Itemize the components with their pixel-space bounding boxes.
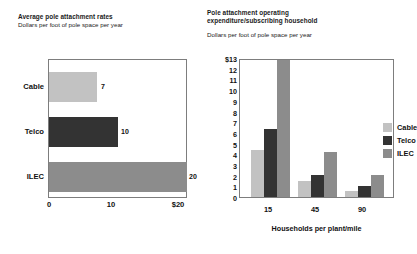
bar-group-45	[298, 152, 337, 197]
bar-telco	[49, 117, 118, 147]
bar-group-15	[251, 60, 290, 197]
bar-90-ilec	[371, 175, 384, 198]
left-chart-title: Average pole attachment rates	[18, 13, 123, 21]
left-plot-area	[48, 59, 187, 198]
bar-cable	[49, 72, 97, 102]
left-xtick-10: 10	[107, 200, 115, 209]
ytick-0: 0	[233, 194, 237, 203]
left-xtick-20: $20	[172, 200, 185, 209]
left-category-label-telco: Telco	[0, 127, 44, 136]
right-plot-area: Cable Telco ILEC	[239, 59, 394, 198]
ytick-2: 2	[233, 172, 237, 181]
legend-swatch-ilec	[383, 149, 392, 158]
bar-90-cable	[345, 191, 358, 197]
right-xtick-15: 15	[264, 205, 272, 214]
right-xaxis-title: Households per plant/mile	[239, 224, 394, 233]
bar-90-telco	[358, 186, 371, 197]
ytick-13: $13	[225, 55, 237, 64]
bar-45-cable	[298, 181, 311, 197]
right-chart-title-line2: expenditure/subscribing household	[207, 17, 317, 25]
ytick-8: 8	[233, 108, 237, 117]
ytick-5: 5	[233, 140, 237, 149]
legend-swatch-telco	[383, 136, 392, 145]
bar-ilec	[49, 162, 187, 192]
legend-swatch-cable	[383, 123, 392, 132]
ytick-12: 12	[229, 65, 237, 74]
bar-45-telco	[311, 175, 324, 198]
left-category-label-cable: Cable	[0, 82, 44, 91]
legend-item-ilec: ILEC	[383, 148, 417, 159]
right-chart-titleblock: Pole attachment operating expenditure/su…	[207, 9, 317, 40]
legend: Cable Telco ILEC	[383, 122, 417, 161]
left-chart-titleblock: Average pole attachment rates Dollars pe…	[18, 13, 123, 29]
ytick-1: 1	[233, 183, 237, 192]
left-value-label-cable: 7	[101, 83, 105, 90]
right-chart-subtitle: Dollars per foot of pole space per year	[207, 31, 317, 39]
left-value-label-telco: 10	[121, 128, 129, 135]
ytick-7: 7	[233, 119, 237, 128]
legend-label-telco: Telco	[397, 136, 416, 145]
right-yaxis: $13 12 11 10 9 8 7 6 5 4 3 2 1 0	[204, 59, 237, 198]
legend-label-cable: Cable	[397, 123, 417, 132]
right-xtick-90: 90	[358, 205, 366, 214]
bar-15-cable	[251, 150, 264, 197]
ytick-4: 4	[233, 151, 237, 160]
bar-15-telco	[264, 129, 277, 197]
ytick-11: 11	[229, 76, 237, 85]
ytick-6: 6	[233, 129, 237, 138]
ytick-3: 3	[233, 162, 237, 171]
right-chart-panel: Pole attachment operating expenditure/su…	[204, 0, 409, 254]
right-chart-title-line1: Pole attachment operating	[207, 9, 317, 17]
legend-item-cable: Cable	[383, 122, 417, 133]
legend-label-ilec: ILEC	[397, 149, 414, 158]
left-xtick-0: 0	[47, 200, 51, 209]
bar-group-90	[345, 175, 384, 198]
ytick-9: 9	[233, 97, 237, 106]
left-category-label-ilec: ILEC	[0, 172, 44, 181]
legend-item-telco: Telco	[383, 135, 417, 146]
bar-15-ilec	[277, 60, 290, 197]
bar-45-ilec	[324, 152, 337, 197]
left-chart-panel: Average pole attachment rates Dollars pe…	[0, 0, 204, 254]
right-xtick-45: 45	[311, 205, 319, 214]
ytick-10: 10	[229, 87, 237, 96]
left-chart-subtitle: Dollars per foot of pole space per year	[18, 21, 123, 29]
left-value-label-ilec: 20	[189, 173, 197, 180]
